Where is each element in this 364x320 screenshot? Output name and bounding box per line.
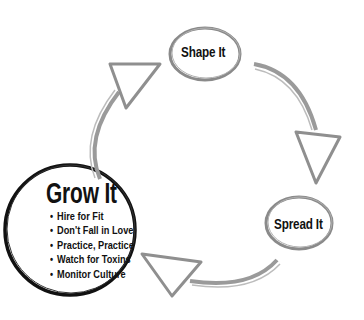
bullet-item: Monitor Culture — [50, 267, 134, 281]
bullet-item: Watch for Toxins — [50, 252, 134, 266]
grow-it-title: Grow It — [46, 179, 117, 208]
bullet-item: Practice, Practice — [50, 238, 134, 252]
spread-it-label: Spread It — [274, 215, 323, 232]
arrow-spread-to-grow — [142, 254, 280, 296]
shape-it-label: Shape It — [181, 43, 225, 60]
arrow-grow-to-shape — [90, 64, 160, 179]
bullet-item: Hire for Fit — [50, 209, 134, 223]
arrow-shape-to-spread — [254, 64, 340, 183]
bullet-item: Don't Fall in Love — [50, 223, 134, 237]
grow-it-bullet-list: Hire for Fit Don't Fall in Love Practice… — [50, 209, 155, 281]
